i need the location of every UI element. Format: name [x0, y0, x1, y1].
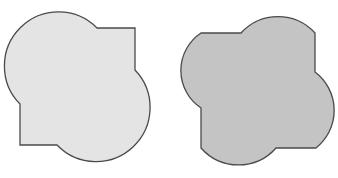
- figure-canvas: [0, 0, 338, 178]
- light-shape: [4, 12, 150, 162]
- dark-shape: [181, 17, 334, 165]
